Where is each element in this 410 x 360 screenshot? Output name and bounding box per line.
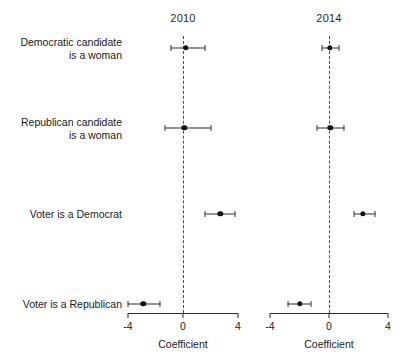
ci-cap-low-2014-row2 — [317, 125, 318, 131]
row-label-2: Republican candidate is a woman — [0, 116, 122, 141]
point-estimate-2010-row4 — [140, 301, 145, 306]
row-label-3: Voter is a Democrat — [0, 208, 122, 221]
ci-cap-high-2010-row4 — [159, 301, 160, 307]
ci-cap-low-2010-row2 — [165, 125, 166, 131]
x-axis-tick-2014-0 — [329, 313, 330, 318]
confidence-interval-2010-row2 — [165, 128, 210, 129]
x-axis-ticklabel-2014-0: 0 — [326, 320, 332, 332]
ci-cap-low-2014-row1 — [321, 45, 322, 51]
x-axis-ticklabel-2010-4: 4 — [235, 320, 241, 332]
ci-cap-high-2010-row1 — [205, 45, 206, 51]
ci-cap-high-2010-row2 — [210, 125, 211, 131]
ci-cap-low-2014-row4 — [287, 301, 288, 307]
x-axis-ticklabel-2014-4: 4 — [385, 320, 391, 332]
point-estimate-2014-row2 — [328, 125, 333, 130]
ci-cap-high-2010-row3 — [235, 211, 236, 217]
x-axis-title-2010: Coefficient — [158, 338, 207, 350]
ci-cap-low-2010-row1 — [170, 45, 171, 51]
point-estimate-2014-row1 — [327, 45, 332, 50]
panel-title-2014: 2014 — [316, 12, 341, 24]
x-axis-tick-2010--4 — [128, 313, 129, 318]
ci-cap-high-2014-row3 — [374, 211, 375, 217]
row-label-1: Democratic candidate is a woman — [0, 36, 122, 61]
x-axis-tick-2014--4 — [270, 313, 271, 318]
point-estimate-2010-row2 — [182, 125, 187, 130]
panel-title-2010: 2010 — [170, 12, 195, 24]
x-axis-ticklabel-2014--4: -4 — [265, 320, 274, 332]
ci-cap-low-2014-row3 — [354, 211, 355, 217]
coefficient-plot-figure: Democratic candidate is a womanRepublica… — [0, 0, 410, 360]
x-axis-title-2014: Coefficient — [304, 338, 353, 350]
row-label-4: Voter is a Republican — [0, 298, 122, 311]
point-estimate-2014-row4 — [297, 301, 302, 306]
zero-reference-line-2010 — [183, 36, 184, 313]
x-axis-ticklabel-2010--4: -4 — [123, 320, 132, 332]
x-axis-ticklabel-2010-0: 0 — [180, 320, 186, 332]
ci-cap-high-2014-row4 — [311, 301, 312, 307]
ci-cap-high-2014-row2 — [343, 125, 344, 131]
ci-cap-low-2010-row3 — [205, 211, 206, 217]
ci-cap-low-2010-row4 — [128, 301, 129, 307]
x-axis-tick-2010-0 — [183, 313, 184, 318]
ci-cap-high-2014-row1 — [339, 45, 340, 51]
x-axis-tick-2014-4 — [388, 313, 389, 318]
point-estimate-2014-row3 — [360, 211, 365, 216]
x-axis-tick-2010-4 — [238, 313, 239, 318]
point-estimate-2010-row1 — [183, 45, 188, 50]
point-estimate-2010-row3 — [217, 211, 222, 216]
zero-reference-line-2014 — [329, 36, 330, 313]
